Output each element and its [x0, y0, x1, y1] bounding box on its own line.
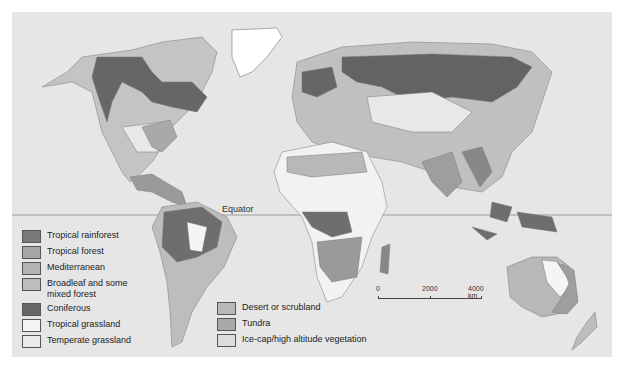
legend-item-coniferous: Coniferous — [22, 303, 172, 316]
legend-label-line2: mixed forest — [47, 289, 96, 299]
legend-item-tropical-rainforest: Tropical rainforest — [22, 230, 172, 243]
legend-column-2: Desert or scrubland Tundra Ice-cap/high … — [217, 302, 417, 350]
swatch-ice-cap — [217, 334, 236, 347]
scale-label-0: 0 — [376, 285, 380, 292]
legend-item-temperate-grassland: Temperate grassland — [22, 335, 172, 348]
scale-tick — [378, 296, 379, 299]
southeast-asia-islands — [472, 202, 557, 240]
swatch-coniferous — [22, 303, 41, 316]
north-america — [42, 37, 217, 207]
swatch-mediterranean — [22, 262, 41, 275]
legend-item-broadleaf: Broadleaf and some mixed forest — [22, 278, 172, 300]
swatch-tropical-forest — [22, 246, 41, 259]
swatch-broadleaf — [22, 278, 41, 291]
world-vegetation-map: Equator Tropical rainforest Tropical for… — [12, 12, 612, 357]
legend-item-ice-cap: Ice-cap/high altitude vegetation — [217, 334, 417, 347]
scale-tick — [481, 296, 482, 299]
scale-label-4000: 4000 km — [468, 285, 486, 299]
new-zealand — [572, 312, 597, 350]
legend-item-tropical-forest: Tropical forest — [22, 246, 172, 259]
scale-tick — [430, 296, 431, 299]
legend-item-tundra: Tundra — [217, 318, 417, 331]
equator-label: Equator — [222, 204, 254, 214]
swatch-tundra — [217, 318, 236, 331]
legend-column-1: Tropical rainforest Tropical forest Medi… — [22, 230, 172, 351]
africa — [274, 142, 390, 302]
scale-label-2000: 2000 — [422, 285, 438, 292]
legend-item-mediterranean: Mediterranean — [22, 262, 172, 275]
australia — [507, 257, 578, 317]
swatch-temperate-grassland — [22, 335, 41, 348]
legend-item-tropical-grassland: Tropical grassland — [22, 319, 172, 332]
swatch-tropical-grassland — [22, 319, 41, 332]
scale-bar: 0 2000 4000 km — [376, 285, 486, 305]
swatch-tropical-rainforest — [22, 230, 41, 243]
greenland — [232, 28, 282, 77]
swatch-desert — [217, 302, 236, 315]
legend-label-line1: Broadleaf and some — [47, 278, 128, 288]
